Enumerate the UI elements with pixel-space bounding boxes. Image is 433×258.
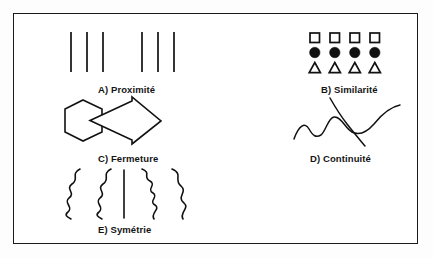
panel-caption-fermeture: C) Fermeture bbox=[98, 153, 158, 164]
panel-proximite: A) Proximité bbox=[54, 26, 204, 98]
fermeture-arrow-shape bbox=[90, 97, 161, 144]
panel-fermeture: C) Fermeture bbox=[54, 96, 204, 172]
panel-caption-similarite: B) Similarité bbox=[321, 84, 378, 95]
panel-similarite: B) Similarité bbox=[279, 24, 414, 100]
similarite-row-circles bbox=[310, 47, 380, 57]
continuite-curve-wavy bbox=[294, 105, 400, 139]
continuite-crossing-curves-icon bbox=[272, 96, 422, 152]
figure-border-frame: A) Proximité bbox=[13, 13, 418, 244]
panel-caption-continuite: D) Continuité bbox=[310, 153, 371, 164]
panel-caption-symetrie: E) Symétrie bbox=[98, 224, 151, 235]
panel-symetrie: E) Symétrie bbox=[54, 166, 204, 242]
fermeture-hexagon-arrow-icon bbox=[54, 96, 204, 152]
proximite-vertical-lines-icon bbox=[54, 26, 204, 82]
similarite-row-triangles bbox=[309, 63, 380, 73]
panel-caption-proximite: A) Proximité bbox=[98, 84, 155, 95]
similarite-row-squares bbox=[310, 33, 380, 43]
symetrie-wave-2 bbox=[97, 169, 111, 219]
symetrie-wave-3 bbox=[142, 169, 157, 219]
continuite-curve-diagonal bbox=[330, 98, 365, 146]
panel-continuite: D) Continuité bbox=[272, 96, 422, 172]
symetrie-wave-1 bbox=[66, 169, 80, 219]
symetrie-wavy-lines-icon bbox=[54, 166, 204, 222]
similarite-shape-rows-icon bbox=[279, 24, 414, 82]
symetrie-wave-4 bbox=[172, 169, 186, 219]
